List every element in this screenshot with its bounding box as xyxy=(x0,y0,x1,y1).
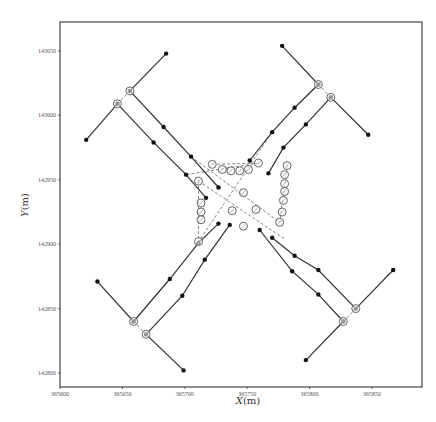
vertex-dot xyxy=(266,171,270,175)
y-tick-label: 143000 xyxy=(38,112,56,118)
y-tick-label: 142950 xyxy=(38,177,56,183)
vertex-dot xyxy=(270,236,274,240)
vertex-dot xyxy=(168,277,172,281)
vertex-dot xyxy=(180,294,184,298)
vertex-dot xyxy=(151,140,155,144)
vertex-dot xyxy=(164,51,168,55)
x-axis-label: X(m) xyxy=(235,395,261,406)
y-axis-ticks: 142800142850142900142950143000143050 xyxy=(38,48,60,376)
y-tick-label: 142900 xyxy=(38,241,56,247)
vertex-dot xyxy=(281,145,285,149)
vertex-dot xyxy=(292,105,296,109)
vertex-dot xyxy=(184,172,188,176)
plot-frame xyxy=(60,22,422,387)
vertex-dot xyxy=(304,122,308,126)
y-axis-label: Y(m) xyxy=(19,193,30,217)
vertex-dot xyxy=(316,292,320,296)
vertex-dot xyxy=(95,279,99,283)
x-tick-label: 365700 xyxy=(176,391,194,397)
vertex-dot xyxy=(228,223,232,227)
x-tick-label: 365600 xyxy=(51,391,69,397)
y-tick-label: 142800 xyxy=(38,370,56,376)
x-tick-label: 365650 xyxy=(113,391,131,397)
vertex-dot xyxy=(84,138,88,142)
y-tick-label: 143050 xyxy=(38,48,56,54)
vertex-dot xyxy=(189,154,193,158)
vertex-dot xyxy=(304,358,308,362)
vertex-dot xyxy=(247,158,251,162)
x-tick-label: 365850 xyxy=(363,391,381,397)
y-tick-label: 142850 xyxy=(38,306,56,312)
vertex-dot xyxy=(204,196,208,200)
vertex-dot xyxy=(280,44,284,48)
x-axis-ticks: 365600365650365700365750365800365850 xyxy=(51,387,381,397)
vertex-dot xyxy=(366,133,370,137)
vertex-dot xyxy=(290,269,294,273)
vertex-dot xyxy=(181,368,185,372)
vertex-dot xyxy=(316,268,320,272)
vertex-dot xyxy=(391,268,395,272)
vertex-dot xyxy=(257,228,261,232)
vertex-dot xyxy=(270,130,274,134)
vertex-dot xyxy=(161,125,165,129)
x-tick-label: 365800 xyxy=(301,391,319,397)
vertex-dot xyxy=(216,185,220,189)
vertex-dot xyxy=(203,257,207,261)
vertex-dot xyxy=(216,221,220,225)
vertex-dot xyxy=(292,254,296,258)
road-network-plot: 365600365650365700365750365800365850 142… xyxy=(0,0,436,422)
